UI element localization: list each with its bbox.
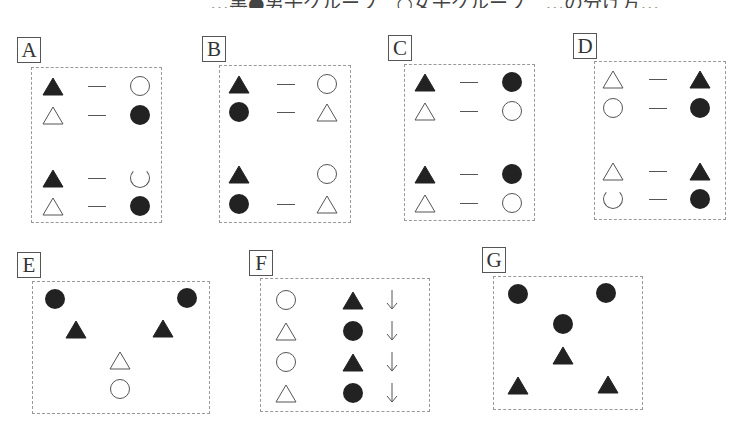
- panel-label-c: C: [388, 35, 412, 61]
- open-triangle-icon: [602, 162, 624, 181]
- filled-triangle-icon: [42, 77, 64, 96]
- filled-circle-icon: [508, 284, 528, 304]
- pair-dash: [88, 206, 106, 207]
- open-circle-icon: [110, 379, 130, 399]
- open-triangle-icon: [275, 322, 297, 341]
- pair-dash: [88, 178, 106, 179]
- filled-triangle-icon: [152, 319, 174, 338]
- panel-label-d: D: [573, 33, 597, 59]
- pair-dash: [88, 115, 106, 116]
- filled-triangle-icon: [342, 291, 364, 310]
- pair-dash: [649, 199, 667, 200]
- pair-dash: [460, 111, 478, 112]
- open-triangle-icon: [414, 102, 436, 121]
- filled-triangle-icon: [228, 165, 250, 184]
- filled-triangle-icon: [414, 165, 436, 184]
- open-circle-icon: [130, 76, 150, 96]
- open-circle-icon: [603, 98, 623, 118]
- open-triangle-icon: [316, 195, 338, 214]
- filled-circle-icon: [177, 288, 197, 308]
- filled-circle-icon: [45, 289, 65, 309]
- pair-dash: [277, 112, 295, 113]
- filled-triangle-icon: [42, 169, 64, 188]
- pair-dash: [460, 203, 478, 204]
- broken-circle-icon: [603, 189, 623, 209]
- filled-triangle-icon: [552, 346, 574, 365]
- panel-label-g: G: [482, 247, 506, 273]
- open-circle-icon: [276, 290, 296, 310]
- open-circle-icon: [276, 352, 296, 372]
- pair-dash: [649, 171, 667, 172]
- pair-dash: [649, 79, 667, 80]
- down-arrow-icon: [386, 320, 398, 342]
- filled-circle-icon: [130, 196, 150, 216]
- filled-circle-icon: [343, 321, 363, 341]
- panel-label-e: E: [17, 252, 41, 278]
- open-circle-icon: [502, 101, 522, 121]
- open-circle-icon: [317, 74, 337, 94]
- filled-circle-icon: [229, 102, 249, 122]
- pair-dash: [460, 174, 478, 175]
- open-triangle-icon: [316, 103, 338, 122]
- open-triangle-icon: [42, 197, 64, 216]
- filled-circle-icon: [130, 105, 150, 125]
- filled-triangle-icon: [342, 353, 364, 372]
- pair-dash: [277, 204, 295, 205]
- broken-circle-icon: [130, 168, 150, 188]
- filled-triangle-icon: [228, 75, 250, 94]
- filled-circle-icon: [690, 189, 710, 209]
- filled-circle-icon: [343, 383, 363, 403]
- open-triangle-icon: [275, 384, 297, 403]
- pair-dash: [649, 108, 667, 109]
- filled-circle-icon: [596, 283, 616, 303]
- question-text-clipped: …黒●男子グループ ○女子グループ …の分け方…: [210, 0, 739, 8]
- open-triangle-icon: [42, 106, 64, 125]
- down-arrow-icon: [386, 382, 398, 404]
- open-triangle-icon: [414, 194, 436, 213]
- filled-circle-icon: [502, 72, 522, 92]
- filled-circle-icon: [502, 164, 522, 184]
- down-arrow-icon: [386, 289, 398, 311]
- panel-label-b: B: [202, 36, 226, 62]
- filled-triangle-icon: [414, 73, 436, 92]
- pair-dash: [88, 86, 106, 87]
- filled-circle-icon: [553, 314, 573, 334]
- panel-label-a: A: [17, 37, 41, 63]
- open-triangle-icon: [109, 351, 131, 370]
- down-arrow-icon: [386, 351, 398, 373]
- open-circle-icon: [502, 193, 522, 213]
- filled-circle-icon: [229, 194, 249, 214]
- pair-dash: [277, 84, 295, 85]
- open-triangle-icon: [602, 70, 624, 89]
- filled-triangle-icon: [507, 376, 529, 395]
- panel-label-f: F: [249, 250, 273, 276]
- filled-circle-icon: [690, 98, 710, 118]
- filled-triangle-icon: [689, 70, 711, 89]
- pair-dash: [460, 82, 478, 83]
- open-circle-icon: [317, 164, 337, 184]
- filled-triangle-icon: [597, 375, 619, 394]
- filled-triangle-icon: [689, 162, 711, 181]
- filled-triangle-icon: [65, 320, 87, 339]
